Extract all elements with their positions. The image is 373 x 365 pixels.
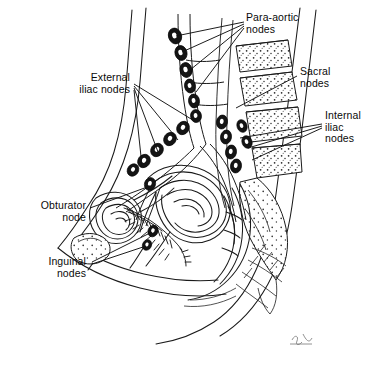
pelvic-lymph-node-diagram: Para-aortic nodes External iliac nodes S… [0,0,373,365]
lymph-node-internal-iliac-chain [224,144,237,160]
label-internal-iliac-nodes: Internal iliac nodes [325,110,361,145]
artist-signature [290,334,312,345]
lymph-node-external-iliac-chain [174,119,192,137]
lymph-node-para-aortic-chain [188,93,201,108]
lymph-node-para-aortic-chain [173,44,188,61]
vertebral-column [216,18,302,314]
lymph-node-internal-iliac-chain [229,158,242,174]
lymph-node-internal-iliac-chain [219,129,232,145]
lymph-node-sacral-internal-lateral [235,118,249,134]
lymph-node-para-aortic-chain [166,26,183,45]
lymph-node-external-iliac-chain [161,130,179,148]
leader-external-iliac [134,86,178,140]
label-external-iliac-nodes: External iliac nodes [24,72,130,95]
label-obturator-node: Obturator node [8,200,86,223]
anatomy-illustration [0,0,373,365]
label-sacral-nodes: Sacral nodes [300,66,330,89]
label-inguinal-nodes: Inguinal nodes [16,256,86,279]
label-para-aortic-nodes: Para-aortic nodes [246,12,298,35]
